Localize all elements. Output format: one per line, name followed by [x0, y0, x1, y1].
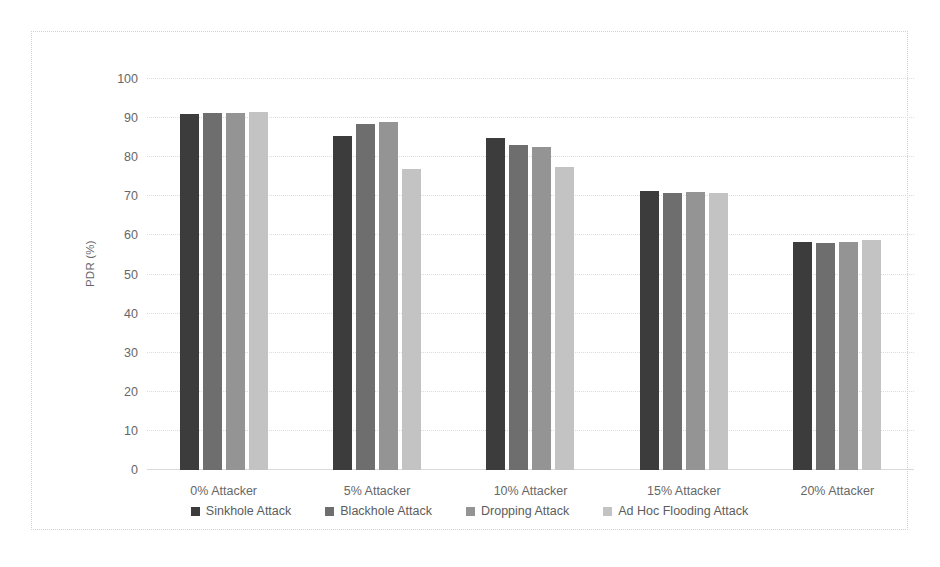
y-tick-label: 100	[117, 73, 138, 86]
y-tick-label: 50	[124, 268, 138, 281]
x-tick-label: 5% Attacker	[344, 484, 411, 498]
x-tick-label: 0% Attacker	[190, 484, 257, 498]
legend-label: Blackhole Attack	[340, 504, 432, 518]
bar	[839, 242, 858, 470]
y-tick-label: 90	[124, 112, 138, 125]
bar	[532, 147, 551, 470]
bar	[203, 113, 222, 470]
legend-item[interactable]: Blackhole Attack	[325, 504, 432, 518]
y-tick-label: 20	[124, 386, 138, 399]
bar	[862, 240, 881, 470]
x-tick-label: 15% Attacker	[647, 484, 721, 498]
legend-swatch-icon	[603, 507, 612, 516]
y-tick-label: 40	[124, 307, 138, 320]
bar-group: 10% Attacker	[454, 79, 607, 470]
legend-item[interactable]: Ad Hoc Flooding Attack	[603, 504, 748, 518]
y-tick-label: 30	[124, 346, 138, 359]
bar	[249, 112, 268, 470]
y-axis-title: PDR (%)	[84, 240, 96, 287]
x-tick-label: 10% Attacker	[494, 484, 568, 498]
bar	[686, 192, 705, 470]
bar	[333, 136, 352, 470]
legend-item[interactable]: Dropping Attack	[466, 504, 569, 518]
plot-area: 1009080706050403020100 0% Attacker5% Att…	[147, 79, 914, 470]
legend-label: Ad Hoc Flooding Attack	[618, 504, 748, 518]
y-tick-label: 80	[124, 151, 138, 164]
legend-swatch-icon	[325, 507, 334, 516]
bar	[793, 242, 812, 470]
legend-swatch-icon	[466, 507, 475, 516]
bar	[356, 124, 375, 470]
bar	[640, 191, 659, 470]
bar	[379, 122, 398, 470]
bar	[402, 169, 421, 470]
bar	[486, 138, 505, 470]
bar-group: 20% Attacker	[761, 79, 914, 470]
y-tick-label: 70	[124, 190, 138, 203]
bar-group: 15% Attacker	[607, 79, 760, 470]
legend-label: Dropping Attack	[481, 504, 569, 518]
bar	[663, 193, 682, 470]
bar	[816, 243, 835, 470]
bar	[555, 167, 574, 470]
legend-label: Sinkhole Attack	[206, 504, 291, 518]
bar	[180, 114, 199, 470]
bar	[709, 193, 728, 470]
y-tick-label: 0	[131, 464, 138, 477]
x-tick-label: 20% Attacker	[800, 484, 874, 498]
bar	[226, 113, 245, 470]
bar-group: 0% Attacker	[147, 79, 300, 470]
chart-legend: Sinkhole AttackBlackhole AttackDropping …	[32, 504, 907, 518]
chart-frame: PDR (%) 1009080706050403020100 0% Attack…	[31, 31, 908, 530]
y-tick-label: 60	[124, 229, 138, 242]
legend-item[interactable]: Sinkhole Attack	[191, 504, 291, 518]
bar-group: 5% Attacker	[300, 79, 453, 470]
legend-swatch-icon	[191, 507, 200, 516]
bar	[509, 145, 528, 470]
y-tick-label: 10	[124, 425, 138, 438]
